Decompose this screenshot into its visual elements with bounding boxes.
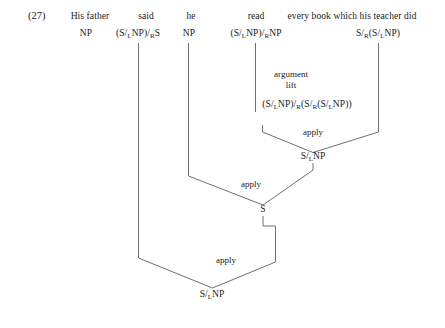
- rule-label-apply-3: apply: [216, 256, 236, 265]
- lexical-category-read: (S/LNP)/RNP: [230, 29, 281, 40]
- lexical-category-said: (S/LNP)/RS: [116, 29, 160, 40]
- apply-3-v: [139, 180, 276, 288]
- node-category-apply-3: S/LNP: [200, 290, 224, 301]
- rule-label-apply-2: apply: [241, 180, 261, 189]
- lexical-category-he: NP: [183, 29, 195, 39]
- derivation-figure: (27) His father said he read every book …: [0, 0, 445, 328]
- lexical-word-every-book: every book which his teacher did: [287, 12, 416, 22]
- node-category-apply-2: S: [260, 205, 265, 215]
- lexical-category-his-father: NP: [80, 29, 92, 39]
- lexical-word-read: read: [248, 12, 265, 22]
- rule-label-argument-lift-line1: argument: [274, 70, 308, 79]
- node-category-apply-1: S/LNP: [301, 152, 325, 163]
- example-number: (27): [28, 10, 46, 21]
- node-category-lifted-read: (S/LNP)/R(S/R(S/LNP)): [262, 100, 351, 111]
- lexical-category-every-book: S/R(S/LNP): [356, 29, 400, 40]
- lexical-word-his-father: His father: [71, 12, 110, 22]
- derivation-lines: [0, 0, 445, 328]
- rule-label-apply-1: apply: [303, 128, 323, 137]
- lexical-word-said: said: [138, 12, 154, 22]
- rule-label-argument-lift-line2: lift: [286, 81, 297, 90]
- lexical-word-he: he: [186, 12, 195, 22]
